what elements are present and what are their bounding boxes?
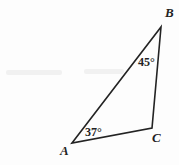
triangle-figure: A B C 37° 45° [0, 0, 179, 165]
vertex-label-a: A [60, 144, 69, 157]
vertex-label-b: B [165, 6, 174, 19]
angle-label-a: 37° [85, 126, 102, 138]
angle-label-b: 45° [138, 56, 155, 68]
vertex-label-c: C [152, 131, 161, 144]
